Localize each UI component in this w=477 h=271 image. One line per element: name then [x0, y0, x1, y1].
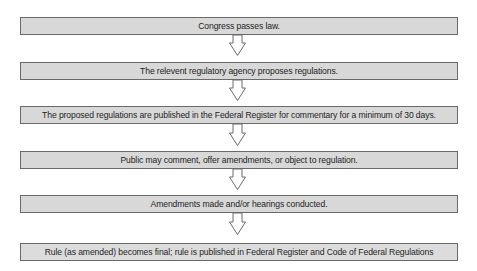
- step-published-federal-register: The proposed regulations are published i…: [20, 106, 458, 124]
- step-congress-passes-law: Congress passes law.: [20, 17, 458, 35]
- step-label: The relevent regulatory agency proposes …: [140, 66, 338, 76]
- down-arrow-icon: [229, 213, 246, 235]
- step-label: Public may comment, offer amendments, or…: [120, 155, 357, 165]
- step-label: Amendments made and/or hearings conducte…: [151, 199, 328, 209]
- step-public-comment: Public may comment, offer amendments, or…: [20, 151, 458, 169]
- step-label: Rule (as amended) becomes final; rule is…: [45, 247, 434, 257]
- step-label: Congress passes law.: [198, 21, 280, 31]
- regulation-process-flowchart: Congress passes law. The relevent regula…: [0, 0, 477, 271]
- down-arrow-icon: [229, 35, 246, 56]
- down-arrow-icon: [229, 169, 246, 190]
- down-arrow-icon: [229, 80, 246, 101]
- down-arrow-icon: [229, 124, 246, 146]
- step-label: The proposed regulations are published i…: [42, 110, 436, 120]
- step-rule-becomes-final: Rule (as amended) becomes final; rule is…: [20, 243, 458, 261]
- step-amendments-hearings: Amendments made and/or hearings conducte…: [20, 195, 458, 213]
- step-agency-proposes-regulations: The relevent regulatory agency proposes …: [20, 62, 458, 80]
